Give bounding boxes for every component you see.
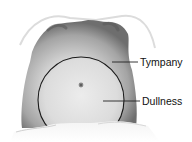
dullness-label: Dullness: [142, 96, 182, 107]
abdomen-diagram: [0, 0, 192, 142]
tympany-label: Tympany: [140, 57, 183, 68]
